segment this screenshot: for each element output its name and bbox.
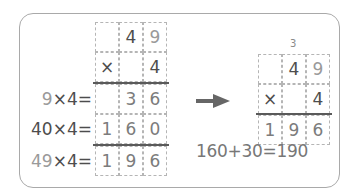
label-number: 40 (31, 119, 53, 139)
grid-cell: 6 (143, 84, 167, 114)
grid-cell: 1 (95, 146, 119, 176)
grid-cell: 1 (95, 114, 119, 144)
grid-cell (119, 52, 143, 82)
grid-cell (95, 22, 119, 52)
grid-cell (95, 84, 119, 114)
grid-cell: 6 (306, 115, 330, 145)
grid-cell: 4 (119, 22, 143, 52)
label-operation: ×4= (53, 119, 92, 139)
addition-equation: 160+30=190 (196, 141, 308, 161)
grid-cell: 4 (282, 54, 306, 84)
partial-label: 9×4= (42, 84, 92, 114)
grid-cell: 0 (143, 114, 167, 144)
grid-cell: 6 (143, 146, 167, 176)
right-arrow-icon (196, 94, 230, 108)
times-sign: × (95, 52, 119, 82)
grid-cell: 9 (306, 54, 330, 84)
carry-digit: 3 (290, 38, 296, 49)
label-operation: ×4= (53, 89, 92, 109)
label-number: 49 (31, 151, 53, 171)
grid-cell: 9 (119, 146, 143, 176)
grid-cell: 9 (143, 22, 167, 52)
grid-cell (282, 84, 306, 114)
label-number: 9 (42, 89, 53, 109)
label-operation: ×4= (53, 151, 92, 171)
grid-cell: 3 (119, 84, 143, 114)
partial-label: 40×4= (31, 114, 92, 144)
grid-cell: 6 (119, 114, 143, 144)
grid-cell (258, 54, 282, 84)
grid-cell: 4 (306, 84, 330, 114)
total-label: 49×4= (31, 146, 92, 176)
grid-cell: 4 (143, 52, 167, 82)
times-sign: × (258, 84, 282, 114)
